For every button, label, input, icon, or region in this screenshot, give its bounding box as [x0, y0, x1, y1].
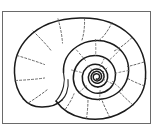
- growth-line-2: [99, 23, 113, 42]
- aperture-columellar-edge: [56, 73, 64, 102]
- growth-line-10: [58, 19, 63, 43]
- growth-lines-outer: [16, 18, 145, 118]
- growth-line-1: [82, 18, 85, 41]
- shell-third-whorl: [73, 56, 115, 98]
- growth-line-7: [102, 99, 111, 118]
- growth-line-3: [113, 38, 132, 52]
- growth-line-5: [127, 78, 145, 86]
- growth-line-13: [16, 78, 45, 81]
- shell-outer-outline: [14, 18, 145, 119]
- inner-growth-line-3: [115, 71, 129, 74]
- growth-line-11: [33, 31, 51, 51]
- growth-line-6: [119, 92, 133, 106]
- growth-line-9: [66, 94, 75, 109]
- growth-line-4: [128, 62, 145, 67]
- growth-line-14: [29, 90, 48, 103]
- shell-illustration: [0, 0, 163, 133]
- apex-inner-spiral: [88, 69, 104, 87]
- growth-line-8: [87, 98, 89, 118]
- third-whorl-arc: [73, 56, 115, 98]
- figure-root: [0, 0, 163, 133]
- shell-apex-coil: [88, 69, 104, 87]
- growth-line-12: [17, 56, 45, 65]
